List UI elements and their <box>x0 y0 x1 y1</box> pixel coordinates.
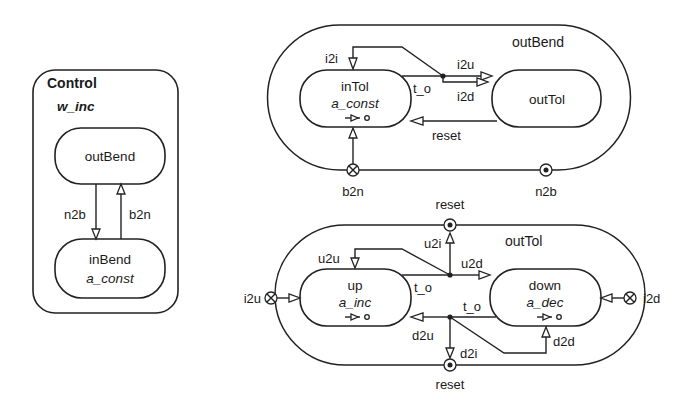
transition-d2d-label: d2d <box>553 334 575 349</box>
arrow-head-icon <box>289 294 300 302</box>
state-up-action: a_inc <box>339 295 372 310</box>
outTol-region-label: outTol <box>505 233 542 249</box>
state-inTol-label: inTol <box>341 79 369 94</box>
arrow-head-icon <box>349 58 357 69</box>
transition-reset-label: reset <box>432 128 461 143</box>
entry-point-i2u[interactable]: i2u <box>244 291 300 306</box>
arrow-head-icon <box>601 294 612 302</box>
state-outBend[interactable]: outBend <box>55 128 165 184</box>
transition-i2u-label: i2u <box>457 57 474 72</box>
transition-t_o-up-label: t_o <box>414 280 432 295</box>
outTol-region: outTol up a_inc down a_dec <box>244 197 661 392</box>
arrow-head-icon <box>479 271 490 279</box>
state-inTol-action: a_const <box>331 96 380 111</box>
transition-t_o-down[interactable]: t_o <box>447 299 496 320</box>
outBend-region: outBend inTol a_const outTol t_o <box>268 25 631 199</box>
transition-b2n-label: b2n <box>129 207 151 222</box>
arrow-head-icon <box>351 258 359 268</box>
transition-d2u[interactable]: d2u <box>411 313 450 343</box>
transition-u2d-label: u2d <box>461 256 483 271</box>
arrow-head-icon <box>446 233 454 243</box>
exit-point-reset-bottom[interactable]: reset <box>436 359 465 392</box>
state-inTol[interactable]: inTol a_const <box>300 70 411 127</box>
entry-point-i2d-label: i2d <box>643 291 660 306</box>
state-down-action: a_dec <box>527 295 564 310</box>
arrow-head-icon <box>349 128 357 138</box>
transition-d2i[interactable]: d2i <box>446 317 477 361</box>
state-inBend-label: inBend <box>89 252 131 267</box>
entry-point-i2d[interactable]: i2d <box>601 291 660 306</box>
statechart-diagram: Control w_inc outBend inBend a_const n2b… <box>0 0 698 413</box>
control-title: Control <box>47 75 97 91</box>
exit-point-n2b-label: n2b <box>535 184 557 199</box>
state-outTol[interactable]: outTol <box>492 70 601 127</box>
state-up[interactable]: up a_inc <box>300 269 411 326</box>
state-outTol-label: outTol <box>529 92 565 107</box>
exit-point-reset-top-label: reset <box>436 197 465 212</box>
transition-d2i-label: d2i <box>460 346 477 361</box>
transition-i2d-label: i2d <box>457 89 474 104</box>
transition-t_o-down-label: t_o <box>463 299 481 314</box>
transition-t_o-label: t_o <box>413 81 431 96</box>
transition-n2b-label: n2b <box>64 207 86 222</box>
transition-u2i-label: u2i <box>424 236 441 251</box>
arrow-head-icon <box>542 327 550 337</box>
entry-point-b2n[interactable]: b2n <box>342 128 364 199</box>
arrow-head-icon <box>481 72 492 80</box>
transition-u2d[interactable]: u2d <box>450 256 490 279</box>
transition-i2u[interactable]: i2u <box>443 57 492 80</box>
transition-d2u-label: d2u <box>412 328 434 343</box>
exit-point-reset-top[interactable]: reset <box>436 197 465 231</box>
outBend-region-label: outBend <box>512 34 564 50</box>
control-activity: w_inc <box>57 99 95 114</box>
entry-point-b2n-label: b2n <box>342 184 364 199</box>
state-inBend[interactable]: inBend a_const <box>55 239 165 298</box>
transition-reset[interactable]: reset <box>411 117 497 143</box>
control-chart: Control w_inc outBend inBend a_const n2b… <box>33 70 178 313</box>
transition-u2u-label: u2u <box>318 251 340 266</box>
entry-point-i2u-label: i2u <box>244 291 261 306</box>
exit-point-reset-bottom-label: reset <box>436 377 465 392</box>
arrow-head-icon <box>411 117 423 125</box>
state-inBend-action: a_const <box>86 271 135 286</box>
state-up-label: up <box>347 278 362 293</box>
arrow-head-icon <box>446 348 454 358</box>
state-down-label: down <box>529 278 561 293</box>
arrow-head-icon <box>411 313 423 321</box>
transition-i2i-label: i2i <box>325 51 338 66</box>
state-outBend-label: outBend <box>85 149 135 164</box>
transition-i2d[interactable]: i2d <box>443 76 488 104</box>
state-down[interactable]: down a_dec <box>490 269 601 326</box>
